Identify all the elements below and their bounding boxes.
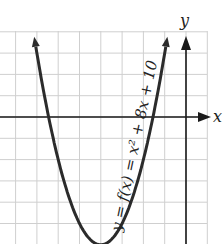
x-axis-label: x	[213, 107, 222, 126]
curve-arrow-right-icon	[162, 37, 170, 48]
parabola-graph: x y y = f(x) = x² + 8x + 10	[0, 0, 223, 244]
y-axis-arrow-icon	[181, 36, 191, 50]
y-axis-label: y	[179, 11, 190, 30]
curve-arrow-left-icon	[32, 37, 40, 48]
x-axis-arrow-icon	[198, 112, 211, 122]
equation-label: y = f(x) = x² + 8x + 10	[107, 58, 161, 234]
grid	[0, 31, 207, 244]
